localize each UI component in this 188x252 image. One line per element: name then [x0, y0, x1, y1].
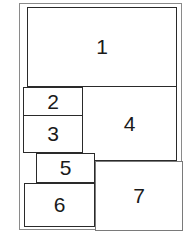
region-label: 3: [47, 122, 59, 146]
region-2: 2: [23, 87, 83, 116]
region-label: 2: [47, 90, 59, 114]
region-3: 3: [23, 115, 83, 153]
region-label: 6: [54, 193, 66, 217]
region-1: 1: [27, 7, 177, 87]
region-label: 5: [60, 156, 72, 180]
region-label: 7: [133, 184, 145, 208]
region-4: 4: [82, 87, 177, 161]
region-5: 5: [36, 153, 95, 183]
region-7: 7: [95, 161, 183, 231]
region-6: 6: [24, 183, 95, 227]
region-label: 1: [96, 35, 108, 59]
region-label: 4: [124, 112, 136, 136]
